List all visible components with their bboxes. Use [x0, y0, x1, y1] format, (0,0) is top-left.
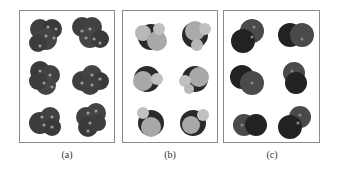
molecule-b4 — [175, 61, 215, 99]
molecule-c2 — [276, 17, 316, 55]
molecule-a4 — [70, 61, 110, 99]
molecule-a3 — [26, 59, 66, 97]
molecule-c6 — [274, 103, 314, 141]
molecule-a6 — [70, 101, 110, 139]
molecule-b1 — [131, 19, 171, 57]
panel-a — [19, 10, 115, 143]
caption-a: (a) — [47, 149, 87, 160]
molecule-c1 — [228, 17, 268, 55]
caption-b: (b) — [150, 149, 190, 160]
caption-c: (c) — [252, 149, 292, 160]
molecule-b6 — [173, 103, 213, 141]
panel-c — [223, 10, 320, 143]
molecule-c3 — [228, 61, 268, 99]
molecule-a5 — [26, 103, 66, 141]
molecule-a2 — [70, 15, 110, 53]
molecule-c4 — [276, 59, 316, 97]
panel-b — [122, 10, 218, 143]
molecule-b2 — [175, 17, 215, 55]
molecule-b3 — [127, 61, 167, 99]
molecule-a1 — [26, 17, 66, 55]
molecule-b5 — [131, 103, 171, 141]
molecule-c5 — [230, 105, 270, 143]
